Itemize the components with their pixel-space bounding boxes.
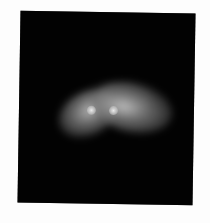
right-bright-core bbox=[109, 106, 118, 115]
black-image-frame bbox=[18, 11, 196, 206]
image-canvas bbox=[0, 0, 210, 223]
left-bright-core bbox=[87, 106, 96, 115]
bilobed-glow bbox=[18, 11, 196, 206]
